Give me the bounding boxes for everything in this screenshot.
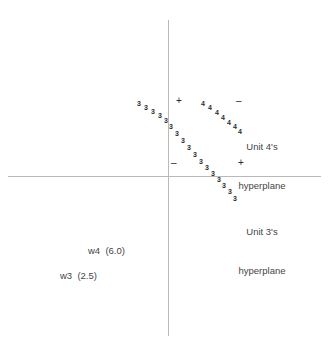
data-marker-3-12: 3 xyxy=(211,170,215,177)
y-axis-line xyxy=(168,20,169,336)
data-marker-3-11: 3 xyxy=(205,164,209,171)
data-marker-3-13: 3 xyxy=(217,176,221,183)
weight-label-w4: w4 (6.0) xyxy=(88,245,125,257)
data-marker-3-10: 3 xyxy=(199,158,203,165)
data-marker-3-0: 3 xyxy=(137,100,141,107)
sign-marker-upper-right: – xyxy=(236,96,242,106)
annotation-unit-3-hyperplane: Unit 3's hyperplane xyxy=(222,199,302,303)
data-marker-4-0: 4 xyxy=(201,100,205,107)
data-marker-3-5: 3 xyxy=(169,123,173,130)
data-marker-3-1: 3 xyxy=(144,104,148,111)
data-marker-4-1: 4 xyxy=(208,104,212,111)
data-marker-3-3: 3 xyxy=(158,112,162,119)
annotation-unit-4-line2: hyperplane xyxy=(222,179,302,192)
data-marker-3-2: 3 xyxy=(151,108,155,115)
annotation-unit-3-line1: Unit 3's xyxy=(222,225,302,238)
weight-label-w3: w3 (2.5) xyxy=(60,270,97,282)
sign-marker-lower-left: – xyxy=(171,158,177,168)
data-marker-3-9: 3 xyxy=(193,151,197,158)
data-marker-3-7: 3 xyxy=(181,137,185,144)
hyperplane-diagram: 333333333333333334444444 + – – + Unit 4'… xyxy=(0,0,335,344)
sign-marker-upper-left: + xyxy=(176,96,182,106)
data-marker-4-2: 4 xyxy=(215,109,219,116)
annotation-unit-3-line2: hyperplane xyxy=(222,264,302,277)
annotation-unit-4-line1: Unit 4's xyxy=(222,140,302,153)
data-marker-3-8: 3 xyxy=(187,144,191,151)
data-marker-3-4: 3 xyxy=(164,117,168,124)
data-marker-3-6: 3 xyxy=(175,130,179,137)
